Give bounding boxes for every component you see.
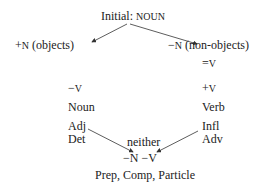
root-value: NOUN xyxy=(136,11,165,22)
minus-v-sign: − xyxy=(68,81,75,95)
category-noun: Noun xyxy=(68,101,95,113)
eq-v-node: =V xyxy=(202,57,216,70)
arrow-infl-to-neither xyxy=(157,131,198,152)
plus-n-label: (objects) xyxy=(32,38,74,52)
root-prefix: Initial: xyxy=(101,9,133,23)
root-node: Initial: NOUN xyxy=(101,10,165,23)
minus-v-feature: V xyxy=(75,83,82,94)
plus-n-feature: N xyxy=(22,40,29,51)
plus-v-node: +V xyxy=(202,82,216,95)
plus-v-feature: V xyxy=(209,83,216,94)
plus-v-sign: + xyxy=(202,81,209,95)
category-verb: Verb xyxy=(202,101,225,113)
bottom-minus-n: −N xyxy=(123,151,138,165)
bottom-minus-v: −V xyxy=(141,151,156,165)
minus-n-sign: − xyxy=(168,38,175,52)
category-adj: Adj xyxy=(68,120,86,132)
arrow-root-to-plus-n xyxy=(92,24,127,42)
minus-n-node: −N (non-objects) xyxy=(168,39,249,52)
minus-v-node: −V xyxy=(68,82,82,95)
category-adv: Adv xyxy=(202,133,223,145)
bottom-categories: Prep, Comp, Particle xyxy=(95,169,195,181)
minus-n-feature: N xyxy=(175,40,182,51)
plus-n-node: +N (objects) xyxy=(15,39,74,52)
plus-n-sign: + xyxy=(15,38,22,52)
neither-label: neither xyxy=(127,136,160,148)
eq-v-feature: V xyxy=(209,58,216,69)
category-infl: Infl xyxy=(202,120,219,132)
eq-v-sign: = xyxy=(202,56,209,70)
minus-n-label: (non-objects) xyxy=(185,38,249,52)
bottom-features: −N −V xyxy=(123,152,157,164)
category-det: Det xyxy=(68,133,85,145)
